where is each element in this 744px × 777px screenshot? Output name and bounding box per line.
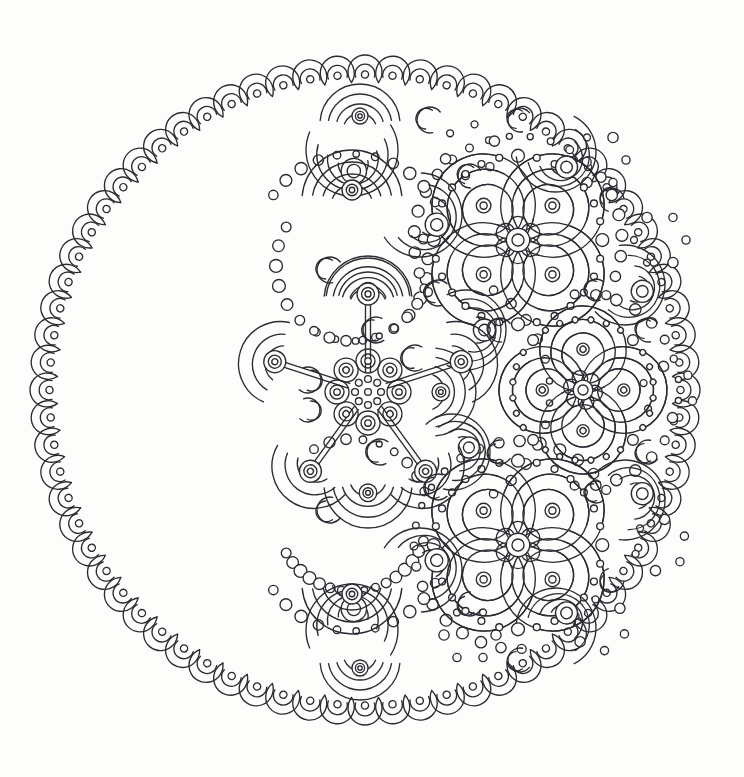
halo-bead-small [590,505,597,512]
crescent-centre-dot [672,441,680,449]
bead [660,335,669,344]
bead [611,474,622,485]
bead [611,294,622,305]
crescent-centre-dot [306,75,314,83]
halo-bead-small [496,624,503,631]
bead [668,257,678,267]
artboard: Crescent Moon Mandala Coloring Page [0,0,744,777]
bead [602,485,611,494]
bead [615,251,626,262]
halo-bead-small [590,578,597,585]
dome-bead-core [358,114,362,118]
bead [295,315,305,325]
crescent-centre-dot [416,697,424,705]
bead [566,146,574,154]
bead [491,630,501,640]
bead [453,653,461,661]
bead [620,630,628,638]
bead [613,209,625,221]
dome-bead-core [438,390,443,395]
bead [675,376,681,382]
bead [660,436,669,445]
bead [682,236,690,244]
mandala-illustration [0,0,744,777]
bead [408,226,420,238]
hub-petal-dot [334,389,340,395]
halo-bead-small [567,476,574,483]
petal-eye-inner [549,202,556,209]
halo-bead-large [596,234,609,247]
bead [547,138,554,145]
bead [295,162,307,174]
halo-bead-small [597,218,604,225]
petal-eye-inner [549,271,556,278]
bead [324,332,335,343]
bead [496,642,506,652]
crescent-centre-dot [361,702,368,709]
bead [632,550,639,557]
hub-petal-dot [365,358,371,364]
halo-bead-small [432,255,439,262]
bead [494,438,504,448]
hub-core-dot [355,379,362,386]
bead [269,585,278,594]
bead [609,178,617,186]
halo-bead-large [512,454,525,467]
bead [606,189,617,200]
bead [471,121,478,128]
hub-core-dot [374,379,381,386]
halo-bead-small [551,466,558,473]
bead [310,445,319,454]
bead [418,593,430,605]
bead [642,212,652,222]
bead [667,412,677,422]
crescent-centre-dot [50,331,58,339]
bead [295,610,307,622]
bead [506,133,512,139]
bead [341,434,351,444]
hub-core-dot [365,376,372,383]
bead [270,259,283,272]
halo-bead-small [478,617,485,624]
bead [281,299,293,311]
bead [269,190,278,199]
halo-bead-small [590,200,597,207]
crescent-centre-dot [47,359,55,367]
bead [616,229,628,241]
bead [402,312,412,322]
rosette-centre-inner [512,234,524,246]
bead [404,606,416,618]
hub-petal-dot [365,420,371,426]
bead [542,355,550,363]
bead [684,371,692,379]
bead [600,647,608,655]
bead [669,213,677,221]
hub-core-dot [365,402,372,409]
bead [447,130,454,137]
bead [402,457,412,467]
halo-bead-large [596,539,609,552]
crescent-centre-dot [47,414,55,422]
crescent-centre-dot [334,700,342,708]
bead [584,134,591,141]
bead [359,436,367,444]
bead [352,338,359,345]
halo-bead-small [597,560,604,567]
bead [688,397,696,405]
bead [414,268,424,278]
bead [412,562,421,571]
bead [419,503,425,509]
bead [376,333,382,339]
bead [428,484,434,490]
petal-eye-inner [480,202,487,209]
bead [659,514,669,524]
bead [412,298,423,309]
petal-eye-inner [480,576,487,583]
bead [676,558,684,566]
bead [341,336,351,346]
bead [440,154,450,164]
bead [602,291,611,300]
bead [670,355,677,362]
bead [592,596,599,603]
halo-bead-small [533,154,540,161]
